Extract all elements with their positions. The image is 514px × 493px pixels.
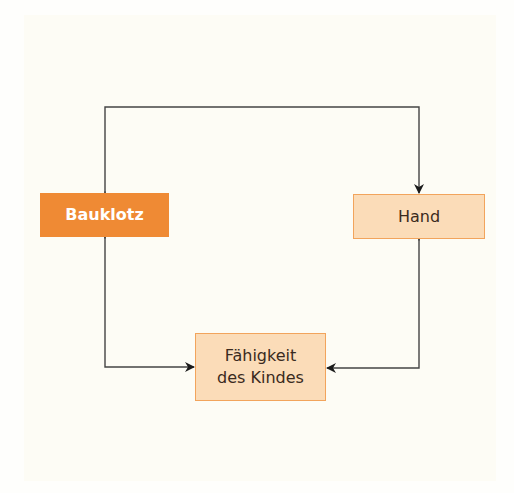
node-faehigkeit-label-line1: Fähigkeit	[225, 345, 297, 367]
node-hand: Hand	[353, 194, 485, 239]
node-hand-label: Hand	[398, 206, 440, 228]
node-bauklotz-label: Bauklotz	[65, 204, 143, 226]
connector-lines	[0, 0, 514, 493]
edge-bauklotz-faehigkeit	[105, 238, 194, 367]
edge-hand-faehigkeit	[327, 240, 419, 368]
node-bauklotz: Bauklotz	[40, 193, 169, 237]
node-faehigkeit-label-line2: des Kindes	[217, 367, 304, 389]
edge-bauklotz-hand	[105, 107, 419, 193]
node-faehigkeit-des-kindes: Fähigkeit des Kindes	[195, 333, 326, 401]
